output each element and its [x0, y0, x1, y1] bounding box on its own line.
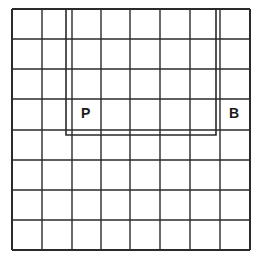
grid-diagram [0, 0, 259, 262]
label-b: B [229, 106, 239, 120]
label-p: P [81, 106, 90, 120]
grid-lines [12, 9, 250, 250]
